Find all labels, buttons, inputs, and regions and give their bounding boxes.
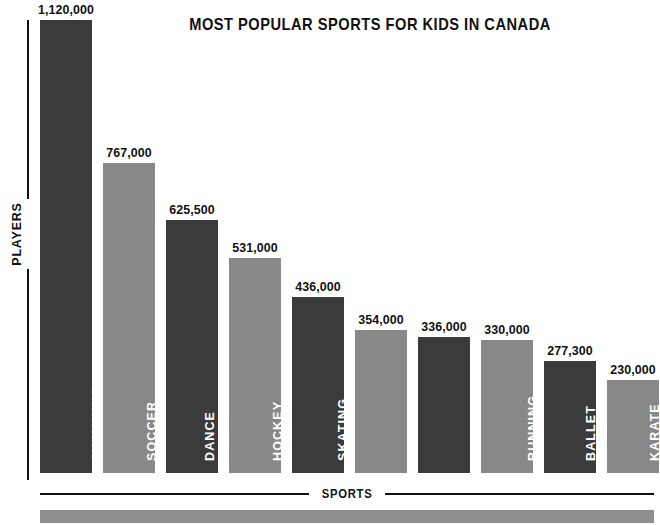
bar-value-label: 230,000 — [610, 362, 656, 377]
bar-group: 230,000KARATE — [607, 380, 659, 473]
bar-group: 277,300BALLET — [544, 361, 596, 473]
bar-group: 354,000BASKETBALL — [355, 330, 407, 473]
bar-category-label: SKATING — [336, 398, 344, 461]
bar-rect: HOCKEY — [229, 258, 281, 473]
bar-group: 767,000SOCCER — [103, 163, 155, 473]
bar-value-label: 1,120,000 — [38, 2, 94, 17]
bar-category-label: KARATE — [648, 403, 659, 461]
bar-value-label: 277,300 — [547, 343, 593, 358]
bar-group: 625,500DANCE — [166, 220, 218, 473]
bar-rect: RUNNING — [481, 340, 533, 473]
bar-rect: KARATE — [607, 380, 659, 473]
bar-group: 531,000HOCKEY — [229, 258, 281, 473]
y-axis-label: PLAYERS — [5, 199, 29, 269]
bar-rect: SKATING — [292, 297, 344, 473]
bar-category-label: DANCE — [203, 411, 217, 461]
bar-group: 436,000SKATING — [292, 297, 344, 473]
x-axis-rule-left — [40, 493, 309, 495]
bar-category-label: RUNNING — [526, 395, 533, 461]
bar-value-label: 330,000 — [484, 322, 530, 337]
plot-area: 1,120,000SWIMMING767,000SOCCER625,500DAN… — [40, 20, 654, 473]
bar-rect: DANCE — [166, 220, 218, 473]
x-axis-label: SPORTS — [313, 487, 382, 501]
bar-rect: BALLET — [544, 361, 596, 473]
bar-value-label: 625,500 — [169, 202, 215, 217]
bar-value-label: 531,000 — [232, 240, 278, 255]
x-axis-rule-right — [385, 493, 654, 495]
bar-value-label: 767,000 — [106, 145, 152, 160]
bar-group: 336,000GYMNASTICS — [418, 337, 470, 473]
bar-category-label: SOCCER — [145, 401, 155, 461]
bar-category-label: BALLET — [584, 405, 596, 461]
bar-rect: SOCCER — [103, 163, 155, 473]
bar-category-label: SWIMMING — [90, 386, 92, 461]
bar-rect: GYMNASTICS — [418, 337, 470, 473]
bar-rect: BASKETBALL — [355, 330, 407, 473]
bar-group: 330,000RUNNING — [481, 340, 533, 473]
footer-band — [40, 510, 654, 523]
x-axis: SPORTS — [40, 484, 654, 504]
bar-value-label: 354,000 — [358, 312, 404, 327]
bar-group: 1,120,000SWIMMING — [40, 20, 92, 473]
bar-value-label: 436,000 — [295, 279, 341, 294]
bar-rect: SWIMMING — [40, 20, 92, 473]
bar-chart-figure: MOST POPULAR SPORTS FOR KIDS IN CANADA P… — [0, 0, 660, 525]
bar-value-label: 336,000 — [421, 319, 467, 334]
bar-category-label: HOCKEY — [271, 401, 281, 461]
